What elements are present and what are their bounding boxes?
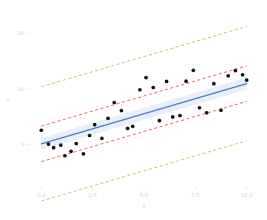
x-tick-label: 10.0: [241, 192, 253, 198]
data-point: [158, 119, 162, 123]
x-tick-label: 7.5: [191, 192, 200, 198]
data-point: [126, 126, 130, 130]
data-point: [88, 134, 92, 138]
data-point: [59, 143, 63, 147]
y-tick-label: 20: [18, 30, 25, 36]
data-point: [106, 116, 110, 120]
data-point: [151, 86, 155, 90]
data-point: [165, 80, 169, 84]
data-point: [144, 76, 148, 80]
data-point: [226, 74, 230, 78]
data-point: [234, 69, 238, 73]
data-point: [39, 128, 43, 132]
data-point: [138, 88, 142, 92]
chart-figure: 0.02.55.07.510.0 01020 x y: [0, 0, 267, 220]
data-point: [47, 142, 51, 146]
data-point: [112, 101, 116, 105]
y-tick-label: 10: [18, 86, 25, 92]
x-tick-label: 2.5: [88, 192, 97, 198]
data-point: [205, 111, 209, 115]
data-point: [171, 115, 175, 119]
scatter-plot-svg: 0.02.55.07.510.0 01020 x y: [0, 0, 267, 220]
data-point: [178, 114, 182, 118]
data-point: [52, 146, 56, 150]
data-point: [191, 68, 195, 72]
data-point: [120, 109, 124, 113]
data-point: [100, 136, 104, 140]
data-point: [131, 125, 135, 129]
data-point: [69, 149, 73, 153]
data-point: [212, 82, 216, 86]
data-point: [245, 78, 249, 82]
figure-background: [0, 0, 267, 220]
data-point: [198, 106, 202, 110]
data-point: [63, 154, 67, 158]
data-point: [219, 108, 223, 112]
x-tick-label: 5.0: [140, 192, 149, 198]
data-point: [74, 142, 78, 146]
data-point: [241, 73, 245, 77]
y-tick-label: 0: [21, 141, 24, 147]
x-tick-label: 0.0: [37, 192, 46, 198]
data-point: [184, 79, 188, 83]
data-point: [82, 152, 86, 156]
data-point: [93, 123, 97, 127]
